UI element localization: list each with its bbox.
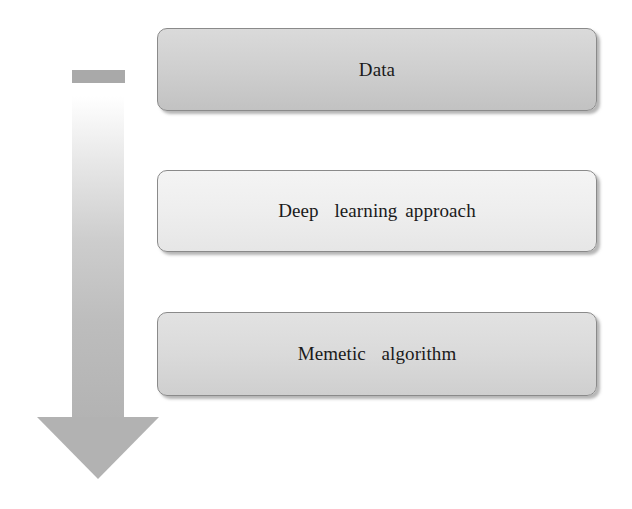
down-arrow-head-icon	[37, 417, 159, 479]
step-box-deep-learning: Deep learning approach	[157, 170, 597, 252]
step-box-data: Data	[157, 28, 597, 111]
step-label: Data	[359, 59, 395, 81]
step-box-memetic-algorithm: Memetic algorithm	[157, 312, 597, 396]
step-label: Deep learning approach	[278, 200, 476, 222]
arrow-cap	[72, 70, 125, 83]
step-label: Memetic algorithm	[298, 343, 457, 365]
down-arrow-shaft	[72, 96, 124, 418]
